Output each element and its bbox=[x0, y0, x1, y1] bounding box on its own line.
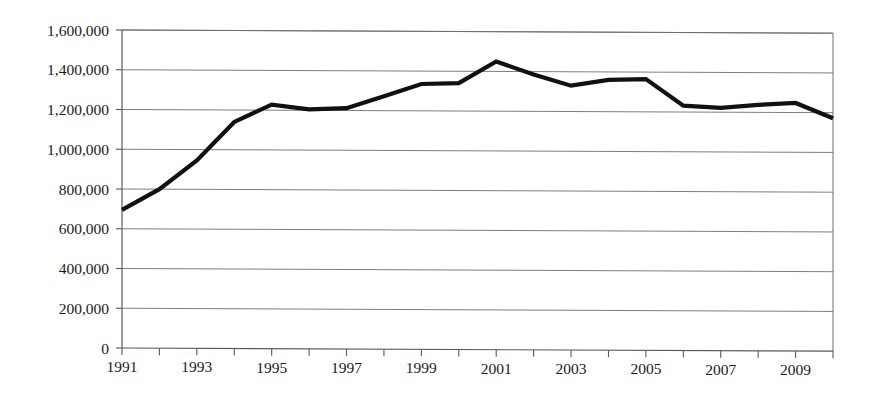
x-tick-label: 2007 bbox=[705, 361, 736, 378]
y-tick-label: 400,000 bbox=[59, 260, 110, 277]
y-tick-label: 1,600,000 bbox=[47, 22, 109, 39]
line-chart: 0200,000400,000600,000800,0001,000,0001,… bbox=[0, 0, 872, 406]
y-tick-label: 200,000 bbox=[59, 300, 110, 317]
x-tick-label: 1995 bbox=[256, 359, 287, 376]
x-tick-label: 1993 bbox=[181, 358, 212, 375]
y-tick-label: 600,000 bbox=[59, 220, 110, 237]
y-tick-label: 1,000,000 bbox=[47, 141, 109, 158]
x-tick-label: 2001 bbox=[481, 360, 512, 377]
x-tick-label: 2009 bbox=[780, 361, 811, 378]
x-tick-label: 1999 bbox=[406, 359, 437, 376]
x-tick-label: 2003 bbox=[556, 360, 587, 377]
y-tick-label: 800,000 bbox=[59, 181, 110, 198]
y-tick-label: 1,200,000 bbox=[47, 101, 109, 118]
x-tick-label: 1997 bbox=[331, 359, 362, 376]
y-tick-label: 0 bbox=[101, 340, 109, 357]
x-tick-label: 1991 bbox=[107, 358, 138, 375]
y-tick-label: 1,400,000 bbox=[47, 61, 109, 78]
x-tick-label: 2005 bbox=[630, 360, 661, 377]
chart-canvas: 0200,000400,000600,000800,0001,000,0001,… bbox=[0, 0, 872, 406]
